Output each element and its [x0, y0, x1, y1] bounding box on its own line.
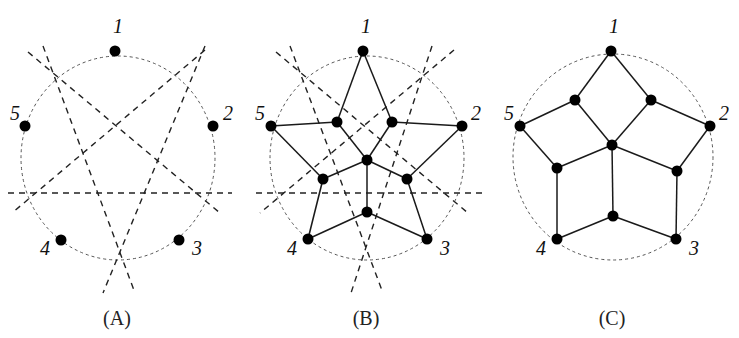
vertex-label: 1: [113, 15, 123, 37]
graph-edge: [613, 216, 676, 239]
inner-vertex: [607, 140, 618, 151]
vertex-label: 3: [191, 237, 202, 259]
graph-edge: [407, 179, 427, 239]
panel-caption: (C): [599, 307, 626, 330]
guide-circle: [513, 54, 713, 260]
vertex-label: 5: [504, 102, 514, 124]
inner-vertex: [672, 166, 683, 177]
graph-edge: [323, 160, 367, 179]
outer-vertex-3: [422, 234, 433, 245]
graph-edge: [575, 51, 611, 100]
graph-edge: [367, 212, 427, 239]
dashed-cut-line: [103, 46, 205, 293]
figure-canvas: 12345(A)12345(B)12345(C): [0, 0, 739, 338]
graph-edge: [612, 145, 613, 216]
graph-edge: [651, 100, 710, 126]
dashed-cut-line: [260, 50, 454, 213]
dashed-cut-line: [290, 46, 383, 293]
outer-vertex-5: [266, 121, 277, 132]
graph-edge: [520, 126, 557, 168]
inner-vertex: [362, 155, 373, 166]
vertex-label: 4: [287, 237, 297, 259]
inner-vertex: [387, 117, 398, 128]
vertex-label: 3: [688, 237, 699, 259]
outer-vertex-2: [457, 121, 468, 132]
graph-edge: [575, 100, 612, 145]
graph-edge: [557, 216, 613, 239]
graph-edge: [677, 126, 710, 171]
outer-vertex-1: [606, 46, 617, 57]
graph-edge: [676, 171, 677, 239]
dashed-cut-line: [28, 52, 220, 213]
inner-vertex: [646, 95, 657, 106]
graph-edge: [271, 122, 337, 126]
vertex-label: 2: [719, 102, 729, 124]
graph-edge: [520, 100, 575, 126]
graph-edge: [611, 51, 651, 100]
vertex-label: 5: [10, 102, 20, 124]
panel-c: 12345(C): [504, 15, 729, 330]
vertex-label: 5: [255, 102, 265, 124]
outer-vertex-1: [358, 46, 369, 57]
vertex-label: 1: [609, 15, 619, 37]
dashed-cut-line: [12, 50, 205, 213]
panel-caption: (B): [353, 307, 380, 330]
inner-vertex: [552, 163, 563, 174]
guide-circle: [21, 56, 215, 260]
graph-edge: [612, 100, 651, 145]
outer-vertex-4: [303, 234, 314, 245]
outer-vertex-2: [208, 121, 219, 132]
vertex-label: 4: [536, 237, 546, 259]
graph-edge: [308, 179, 323, 239]
vertex-label: 2: [471, 102, 481, 124]
graph-edge: [612, 145, 677, 171]
graph-edge: [557, 145, 612, 168]
graph-edge: [392, 122, 462, 126]
panel-b: 12345(B): [255, 15, 482, 330]
graph-edge: [367, 160, 407, 179]
inner-vertex: [402, 174, 413, 185]
vertex-label: 1: [361, 15, 371, 37]
graph-edge: [337, 51, 363, 122]
outer-vertex-4: [552, 234, 563, 245]
panel-a: 12345(A): [8, 15, 233, 330]
inner-vertex: [332, 117, 343, 128]
vertex-label: 4: [40, 237, 50, 259]
outer-vertex-5: [20, 121, 31, 132]
graph-edge: [271, 126, 323, 179]
vertex-label: 2: [223, 102, 233, 124]
outer-vertex-3: [671, 234, 682, 245]
dashed-cut-line: [351, 46, 432, 293]
graph-edge: [367, 122, 392, 160]
outer-vertex-3: [174, 235, 185, 246]
inner-vertex: [570, 95, 581, 106]
dashed-cut-line: [43, 46, 135, 293]
panel-caption: (A): [103, 307, 131, 330]
graph-edge: [337, 122, 367, 160]
dashed-cut-line: [276, 52, 468, 213]
outer-vertex-4: [56, 235, 67, 246]
inner-vertex: [318, 174, 329, 185]
inner-vertex: [608, 211, 619, 222]
outer-vertex-1: [110, 46, 121, 57]
graph-edge: [407, 126, 462, 179]
inner-vertex: [362, 207, 373, 218]
outer-vertex-2: [705, 121, 716, 132]
outer-vertex-5: [515, 121, 526, 132]
vertex-label: 3: [439, 237, 450, 259]
graph-edge: [363, 51, 392, 122]
